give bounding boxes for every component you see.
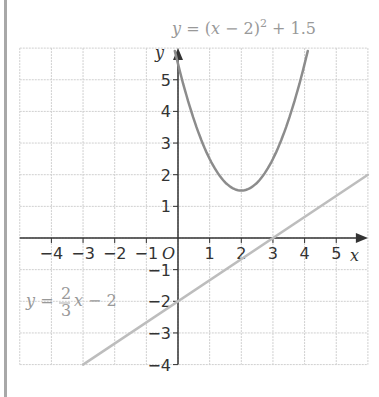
svg-text:y =: y = [25, 291, 54, 310]
svg-text:−3: −3 [71, 244, 95, 263]
grid-lines [20, 48, 368, 365]
svg-text:5: 5 [161, 71, 171, 90]
svg-text:4: 4 [300, 244, 310, 263]
svg-text:−1: −1 [147, 261, 171, 280]
line-equation-label: y = 2 3 x − 2 [25, 284, 117, 320]
svg-text:x − 2: x − 2 [74, 291, 117, 310]
svg-text:3: 3 [268, 244, 278, 263]
curves [83, 51, 368, 365]
svg-text:−4: −4 [40, 244, 64, 263]
y-axis-label: y [154, 43, 165, 62]
x-axis-label: x [350, 246, 359, 265]
svg-text:4: 4 [161, 102, 171, 121]
svg-text:3: 3 [161, 134, 171, 153]
svg-text:1: 1 [161, 197, 171, 216]
origin-label: O [162, 244, 175, 263]
parabola-equation-label: y = (x − 2)2 + 1.5 [171, 17, 316, 38]
svg-text:−2: −2 [103, 244, 127, 263]
svg-text:3: 3 [61, 301, 71, 320]
svg-text:2: 2 [161, 166, 171, 185]
svg-text:1: 1 [205, 244, 215, 263]
function-graph: −4−3−2−112345−4−3−2−112345 y = (x − 2)2 … [0, 0, 379, 397]
svg-text:−4: −4 [147, 356, 171, 375]
svg-text:5: 5 [331, 244, 341, 263]
svg-text:−3: −3 [147, 324, 171, 343]
